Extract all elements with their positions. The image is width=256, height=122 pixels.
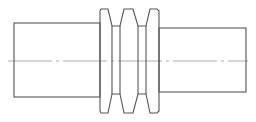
drawing-svg bbox=[0, 0, 256, 122]
left-shaft bbox=[14, 23, 100, 97]
technical-drawing: Stepped shaft with triple-groove V-belt … bbox=[0, 0, 256, 122]
right-shaft bbox=[159, 28, 246, 92]
